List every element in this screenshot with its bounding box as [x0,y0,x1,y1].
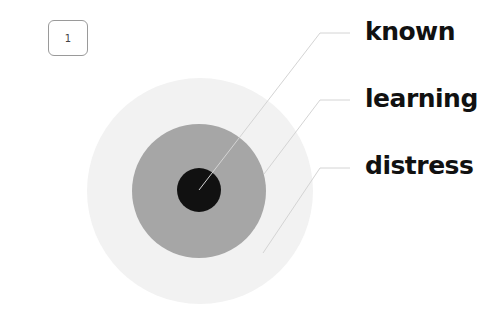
label-known: known [365,19,455,44]
label-distress: distress [365,153,473,178]
label-learning: learning [365,86,478,111]
